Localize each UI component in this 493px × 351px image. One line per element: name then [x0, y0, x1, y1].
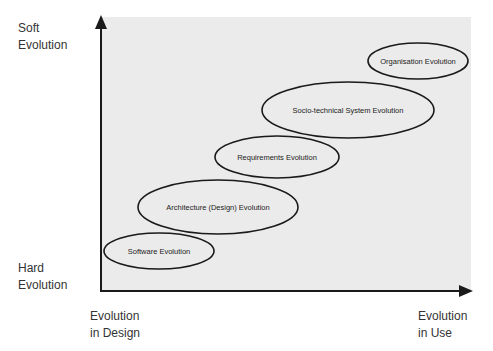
ellipse-label: Socio-technical System Evolution: [293, 106, 404, 115]
ellipse-label: Organisation Evolution: [380, 57, 455, 66]
ellipse-label: Requirements Evolution: [237, 153, 317, 162]
ellipse-label: Software Evolution: [128, 247, 191, 256]
evolution-diagram: Software EvolutionArchitecture (Design) …: [0, 0, 493, 351]
ellipse-label: Architecture (Design) Evolution: [166, 203, 269, 212]
